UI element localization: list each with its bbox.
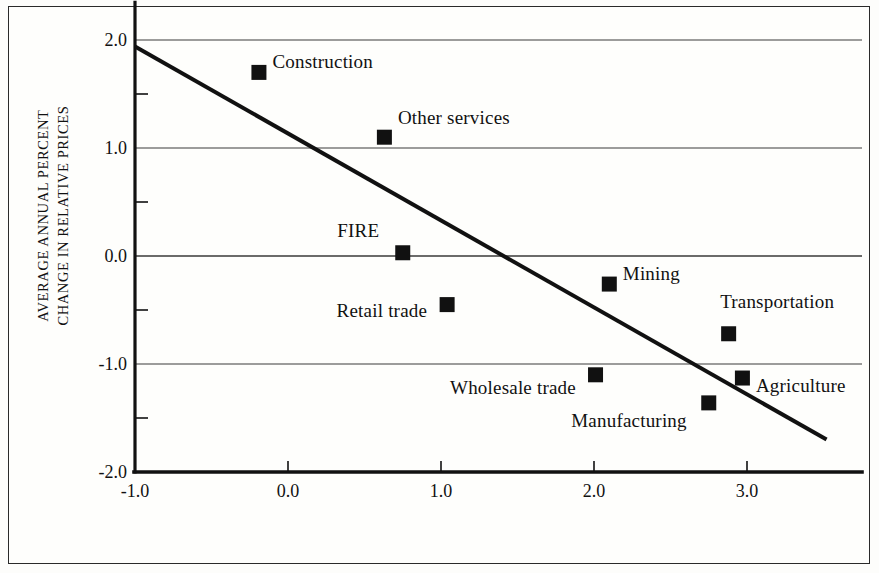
y-tick-label: 2.0 [75, 30, 127, 51]
x-tick-label: 1.0 [406, 481, 476, 502]
data-marker [735, 371, 750, 386]
data-point-label: Manufacturing [571, 410, 687, 432]
data-point-label: Other services [398, 107, 510, 129]
data-marker [721, 326, 736, 341]
data-point-label: Wholesale trade [450, 377, 576, 399]
figure-container: AVERAGE ANNUAL PERCENT CHANGE IN RELATIV… [0, 0, 879, 573]
data-marker [395, 245, 410, 260]
gridlines [135, 40, 862, 364]
data-point-label: Construction [272, 51, 373, 73]
x-tick-label: -1.0 [100, 481, 170, 502]
y-tick-label: -2.0 [75, 462, 127, 483]
x-tick-label: 3.0 [712, 481, 782, 502]
data-marker [701, 395, 716, 410]
x-tick-label: 0.0 [253, 481, 323, 502]
data-point-label: Transportation [720, 291, 834, 313]
y-tick-label: -1.0 [75, 354, 127, 375]
data-marker [602, 277, 617, 292]
y-tick-label: 0.0 [75, 246, 127, 267]
data-point-label: Mining [623, 263, 680, 285]
data-marker [251, 65, 266, 80]
y-tick-label: 1.0 [75, 138, 127, 159]
data-point-label: FIRE [337, 220, 379, 242]
axis-lines [134, 2, 862, 472]
data-marker [588, 367, 603, 382]
data-point-label: Agriculture [756, 375, 846, 397]
x-tick-label: 2.0 [559, 481, 629, 502]
data-marker [440, 297, 455, 312]
data-marker [377, 130, 392, 145]
data-point-label: Retail trade [337, 300, 428, 322]
